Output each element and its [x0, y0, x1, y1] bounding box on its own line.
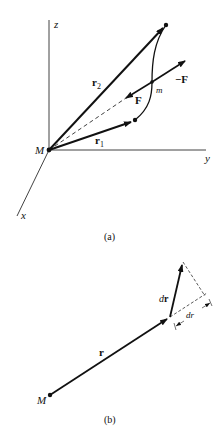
y-axis-label: y — [204, 152, 210, 164]
caption-b: (b) — [104, 414, 116, 426]
origin-label-a: M — [34, 144, 45, 156]
position-vector-label: r — [99, 346, 104, 358]
neg-force-label: −F — [175, 73, 188, 85]
differential-vector-dr — [170, 265, 182, 317]
position-vector-r — [50, 319, 167, 395]
dim-tick-end — [209, 299, 212, 306]
x-axis-label: x — [20, 209, 26, 221]
r2-label: r2 — [92, 76, 101, 91]
force-label: F — [135, 94, 142, 106]
point-m-label: m — [156, 85, 163, 95]
dashed-line-m-to-force — [49, 98, 126, 150]
x-axis — [17, 150, 49, 216]
caption-a: (a) — [104, 231, 115, 243]
origin-dot-b — [48, 393, 52, 397]
origin-label-b: M — [36, 394, 47, 406]
dim-arrow-left — [176, 321, 184, 326]
z-axis-label: z — [53, 18, 59, 30]
r1-label: r1 — [95, 134, 104, 149]
r2-vector — [49, 28, 163, 150]
figure-b: M r dr dr (b) — [36, 262, 212, 426]
dim-arrow-right — [202, 303, 210, 308]
figure-canvas: z y x M r2 r1 F −F m (a) M r — [0, 0, 222, 429]
figure-a: z y x M r2 r1 F −F m (a) — [17, 18, 210, 243]
dr-label: dr — [159, 293, 169, 304]
perpendicular-drop-dashed — [183, 262, 205, 296]
point-m-dot — [150, 80, 154, 84]
radial-component-label: dr — [186, 310, 195, 320]
origin-dot-a — [47, 148, 52, 153]
dim-tick-start — [174, 323, 176, 330]
